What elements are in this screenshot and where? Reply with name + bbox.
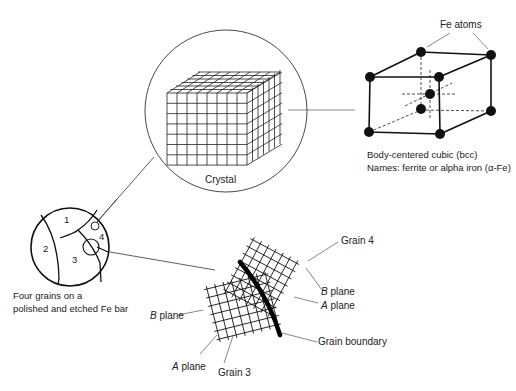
grains-caption-line1: Four grains on a	[13, 290, 83, 301]
grain-number-1: 1	[64, 214, 69, 225]
grain4-label: Grain 4	[341, 235, 374, 246]
connector-grain-boundary	[110, 252, 215, 270]
grain-number-2: 2	[43, 243, 48, 254]
grain-boundary-detail: Grain 4 B plane A plane Grain boundary B…	[150, 235, 387, 378]
grain4-lattice	[223, 237, 299, 316]
grains-caption-line2: polished and etched Fe bar	[13, 303, 128, 314]
b-plane-left-label: B plane	[150, 310, 184, 321]
a-plane-left-label: A plane	[171, 361, 206, 372]
crystal-lattice-cube	[167, 70, 282, 165]
bcc-caption-line1: Body-centered cubic (bcc)	[367, 149, 477, 160]
bcc-caption-line2: Names: ferrite or alpha iron (α-Fe)	[367, 162, 511, 173]
b-plane-right-label: B plane	[321, 286, 355, 297]
fe-atoms-label: Fe atoms	[440, 19, 482, 30]
grains-sample: 1 2 3 4 Four grains on a polished and et…	[13, 199, 128, 314]
grain3-label: Grain 3	[218, 367, 251, 378]
bcc-unit-cell: Fe atoms Body-centered cubic (bcc) Names…	[364, 19, 511, 173]
grain-boundary-label: Grain boundary	[318, 336, 387, 347]
a-plane-right-label: A plane	[320, 300, 355, 311]
crystal-label: Crystal	[205, 174, 236, 185]
crystal-magnifier: Crystal	[145, 30, 307, 192]
grain-number-4: 4	[99, 231, 104, 242]
grain-number-3: 3	[72, 254, 77, 265]
diagram-canvas: Crystal	[0, 0, 516, 391]
